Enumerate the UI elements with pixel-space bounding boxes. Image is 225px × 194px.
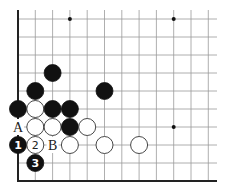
black-stone-disc bbox=[44, 101, 61, 118]
black-stone-move-1: 1 bbox=[10, 137, 27, 154]
white-stone-disc bbox=[61, 137, 78, 154]
move-number: 2 bbox=[32, 139, 39, 152]
black-stone-disc bbox=[61, 119, 78, 136]
white-stone-disc bbox=[96, 137, 113, 154]
black-stone bbox=[44, 65, 61, 82]
white-stone bbox=[79, 119, 96, 136]
go-board-diagram: 123 AB bbox=[0, 0, 225, 194]
black-stone-disc bbox=[44, 65, 61, 82]
marker-a: A bbox=[13, 120, 24, 135]
black-stone bbox=[27, 83, 44, 100]
black-stone bbox=[61, 119, 78, 136]
black-stone bbox=[96, 83, 113, 100]
black-stone bbox=[10, 101, 27, 118]
white-stone bbox=[61, 137, 78, 154]
white-stone bbox=[27, 119, 44, 136]
board-grid bbox=[18, 10, 217, 181]
marker-b: B bbox=[48, 138, 57, 153]
black-stone-disc bbox=[10, 101, 27, 118]
black-stone bbox=[44, 101, 61, 118]
black-stone-move-3: 3 bbox=[27, 155, 44, 172]
star-point bbox=[172, 17, 176, 21]
white-stone bbox=[96, 137, 113, 154]
white-stone bbox=[131, 137, 148, 154]
white-stone-disc bbox=[27, 119, 44, 136]
move-number: 1 bbox=[14, 139, 22, 152]
black-stone-disc bbox=[61, 101, 78, 118]
white-stone bbox=[27, 101, 44, 118]
stones: 123 bbox=[10, 65, 148, 172]
star-point bbox=[172, 125, 176, 129]
white-stone-disc bbox=[131, 137, 148, 154]
white-stone-move-2: 2 bbox=[27, 137, 44, 154]
white-stone-disc bbox=[27, 101, 44, 118]
board-edges bbox=[17, 10, 217, 182]
white-stone-disc bbox=[44, 119, 61, 136]
move-number: 3 bbox=[31, 157, 39, 170]
black-stone-disc bbox=[27, 83, 44, 100]
white-stone-disc bbox=[79, 119, 96, 136]
black-stone bbox=[61, 101, 78, 118]
white-stone bbox=[44, 119, 61, 136]
star-point bbox=[68, 17, 72, 21]
black-stone-disc bbox=[96, 83, 113, 100]
